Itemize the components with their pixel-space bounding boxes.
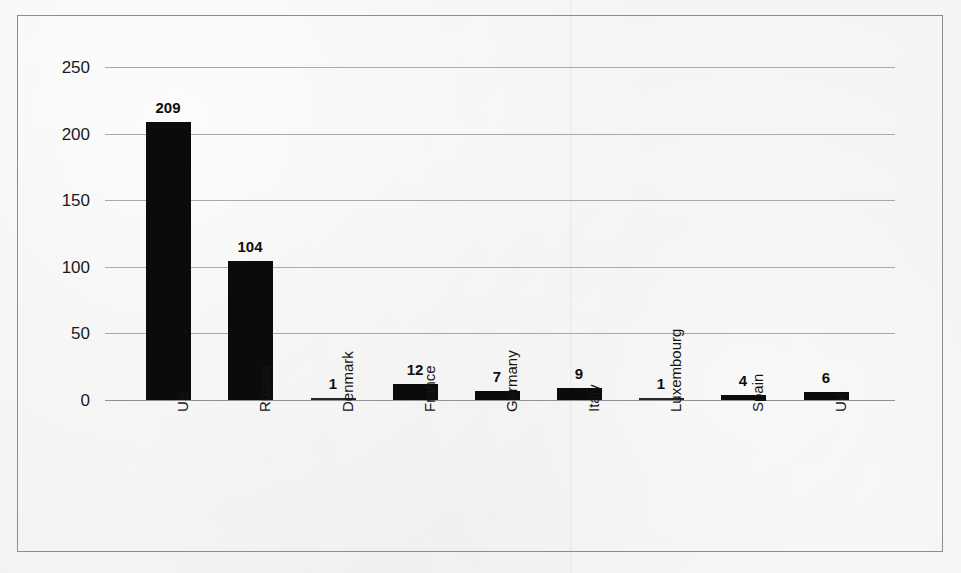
x-label-italy: Italy bbox=[586, 384, 601, 412]
gridline-100 bbox=[105, 267, 895, 268]
y-tick-label-0: 0 bbox=[38, 392, 90, 409]
axis-baseline bbox=[105, 400, 895, 401]
y-tick-label-50: 50 bbox=[38, 325, 90, 342]
x-label-germany: Germany bbox=[504, 350, 519, 412]
y-tick-label-150: 150 bbox=[38, 192, 90, 209]
bar-value-luxembourg: 1 bbox=[621, 376, 702, 391]
plot-area: 20910411279146 bbox=[105, 67, 895, 400]
y-tick-label-100: 100 bbox=[38, 259, 90, 276]
bar-value-germany: 7 bbox=[457, 369, 538, 384]
x-label-denmark: Denmark bbox=[340, 351, 355, 412]
x-label-luxembourg: Luxembourg bbox=[668, 329, 683, 412]
x-label-us: US bbox=[175, 391, 190, 412]
bar-value-uk: 6 bbox=[786, 370, 867, 385]
gridline-150 bbox=[105, 200, 895, 201]
bar-value-us: 209 bbox=[128, 100, 209, 115]
gridline-250 bbox=[105, 67, 895, 68]
gridline-50 bbox=[105, 333, 895, 334]
x-label-france: France bbox=[422, 365, 437, 412]
bar-value-denmark: 1 bbox=[293, 376, 374, 391]
bar-value-spain: 4 bbox=[703, 373, 784, 388]
gridline-200 bbox=[105, 134, 895, 135]
bar-value-italy: 9 bbox=[539, 366, 620, 381]
x-label-uk: UK bbox=[833, 391, 848, 412]
bar-value-france: 12 bbox=[375, 362, 456, 377]
x-label-spain: Spain bbox=[750, 374, 765, 412]
bar-us bbox=[146, 122, 191, 400]
y-tick-label-250: 250 bbox=[38, 59, 90, 76]
x-label-russia: Russia bbox=[257, 366, 272, 412]
chart-page: 050100150200250 20910411279146 USRussiaD… bbox=[0, 0, 961, 573]
y-tick-label-200: 200 bbox=[38, 126, 90, 143]
bar-value-russia: 104 bbox=[210, 239, 291, 254]
